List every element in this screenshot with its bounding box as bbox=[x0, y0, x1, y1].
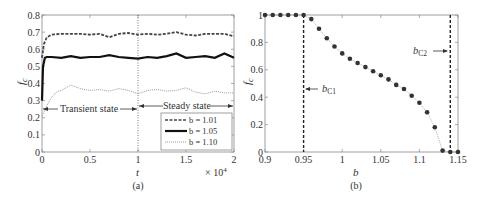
x-tick-label: 1.1 bbox=[413, 154, 426, 165]
bc2-annotation: bC2 bbox=[413, 45, 448, 58]
data-point bbox=[417, 100, 422, 105]
bc2-label: bC2 bbox=[413, 45, 427, 58]
panel-a-xlabel: t bbox=[136, 166, 140, 178]
y-tick-label: 0.2 bbox=[251, 119, 264, 130]
data-point bbox=[325, 36, 330, 41]
data-point bbox=[278, 13, 283, 18]
data-point bbox=[340, 51, 345, 56]
panel-b-series bbox=[263, 13, 461, 155]
y-tick-label: 0.7 bbox=[28, 27, 41, 38]
legend-label-1: b = 1.01 bbox=[189, 115, 217, 125]
steady-state-label: Steady state bbox=[163, 100, 212, 111]
x-tick-label: 1 bbox=[340, 154, 345, 165]
data-point bbox=[386, 77, 391, 82]
panel-b: 0.90.9511.051.11.1500.20.40.60.81 bC1 bC… bbox=[241, 10, 467, 193]
data-point bbox=[394, 83, 399, 88]
panel-b-xlabel: b bbox=[353, 166, 359, 178]
data-point bbox=[309, 17, 314, 22]
data-point bbox=[379, 73, 384, 78]
panel-b-ylabel: fc bbox=[241, 78, 255, 85]
data-point bbox=[270, 13, 275, 18]
legend-label-2: b = 1.05 bbox=[189, 126, 217, 136]
series-line bbox=[265, 15, 458, 152]
data-point bbox=[355, 61, 360, 66]
data-point bbox=[363, 65, 368, 70]
transient-state-label: Transient state bbox=[60, 103, 119, 114]
legend-label-3: b = 1.10 bbox=[189, 137, 217, 147]
x-tick-label: 1 bbox=[136, 154, 141, 165]
y-tick-label: 0.1 bbox=[28, 129, 41, 140]
data-point bbox=[425, 110, 430, 115]
data-point bbox=[263, 13, 268, 18]
y-tick-label: 1 bbox=[258, 10, 263, 21]
data-point bbox=[448, 150, 453, 155]
panel-b-plot-area bbox=[265, 15, 458, 152]
data-point bbox=[286, 13, 291, 18]
bc1-annotation: bC1 bbox=[305, 83, 336, 96]
y-tick-label: 0 bbox=[258, 147, 263, 158]
x-tick-label: 2 bbox=[232, 154, 237, 165]
x-tick-label: 1.5 bbox=[180, 154, 193, 165]
data-point bbox=[294, 13, 299, 18]
panel-b-ticks: 0.90.9511.051.11.1500.20.40.60.81 bbox=[251, 10, 467, 166]
data-point bbox=[332, 44, 337, 49]
steady-state-annotation: Steady state bbox=[139, 100, 233, 111]
panel-a-caption: (a) bbox=[132, 180, 143, 192]
x-tick-label: 1.15 bbox=[449, 154, 467, 165]
data-point bbox=[348, 57, 353, 62]
x-tick-label: 0 bbox=[40, 154, 45, 165]
data-point bbox=[433, 125, 438, 130]
x-tick-label: 1.05 bbox=[372, 154, 390, 165]
y-tick-label: 0.3 bbox=[28, 95, 41, 106]
bc1-label: bC1 bbox=[322, 83, 336, 96]
transient-state-annotation: Transient state bbox=[43, 103, 137, 114]
y-tick-label: 0 bbox=[35, 147, 40, 158]
data-point bbox=[301, 13, 306, 18]
y-tick-label: 0.8 bbox=[251, 37, 264, 48]
panel-a-multiplier: × 104 bbox=[205, 166, 227, 178]
figure: 00.511.5200.10.20.30.40.50.60.70.8 Trans… bbox=[0, 0, 481, 202]
y-tick-label: 0.8 bbox=[28, 10, 41, 21]
y-tick-label: 0.6 bbox=[28, 44, 41, 55]
data-point bbox=[402, 87, 407, 92]
panel-b-caption: (b) bbox=[350, 180, 362, 192]
data-point bbox=[409, 94, 414, 99]
y-tick-label: 0.5 bbox=[28, 61, 41, 72]
data-point bbox=[440, 148, 445, 153]
panel-a-ylabel: fc bbox=[15, 78, 29, 85]
panel-a: 00.511.5200.10.20.30.40.50.60.70.8 Trans… bbox=[15, 10, 237, 193]
panel-a-legend: b = 1.01 b = 1.05 b = 1.10 bbox=[161, 113, 232, 150]
data-point bbox=[317, 26, 322, 31]
data-point bbox=[371, 69, 376, 74]
y-tick-label: 0.6 bbox=[251, 64, 264, 75]
y-tick-label: 0.4 bbox=[28, 78, 41, 89]
y-tick-label: 0.4 bbox=[251, 92, 264, 103]
y-tick-label: 0.2 bbox=[28, 112, 41, 123]
x-tick-label: 0.5 bbox=[84, 154, 97, 165]
data-point bbox=[456, 150, 461, 155]
x-tick-label: 0.95 bbox=[295, 154, 313, 165]
